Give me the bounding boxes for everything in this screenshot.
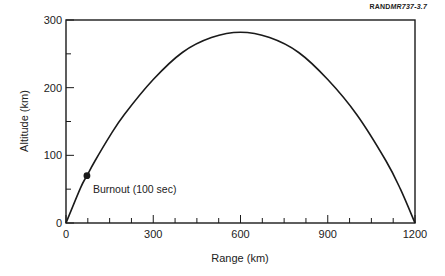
x-tick-label: 1200 (403, 228, 427, 240)
y-tick-label: 0 (56, 217, 62, 229)
x-tick-label: 0 (63, 228, 69, 240)
x-tick-label: 300 (144, 228, 162, 240)
y-tick-label: 300 (44, 14, 62, 26)
trajectory-chart: 030060090012000100200300 Burnout (100 se… (0, 0, 445, 276)
tick-labels: 030060090012000100200300 (44, 14, 428, 240)
annotations: Burnout (100 sec) (84, 172, 177, 194)
burnout-label: Burnout (100 sec) (93, 183, 176, 195)
y-axis-label: Altitude (km) (18, 90, 30, 152)
y-tick-label: 200 (44, 82, 62, 94)
x-tick-label: 900 (319, 228, 337, 240)
x-axis-label: Range (km) (211, 252, 268, 264)
burnout-marker (84, 172, 91, 179)
x-tick-label: 600 (231, 228, 249, 240)
y-tick-label: 100 (44, 149, 62, 161)
